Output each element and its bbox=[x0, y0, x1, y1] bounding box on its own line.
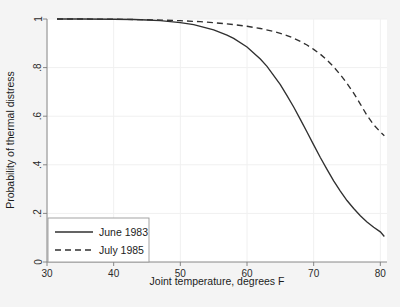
y-tick-label: 1 bbox=[33, 16, 44, 22]
y-tick-label: .4 bbox=[33, 160, 44, 169]
y-tick-label: 0 bbox=[33, 259, 44, 265]
legend-label-july-1985: July 1985 bbox=[99, 244, 144, 256]
chart-legend[interactable]: June 1983 July 1985 bbox=[48, 218, 149, 262]
y-tick-label: .6 bbox=[33, 112, 44, 121]
y-tick-label: .8 bbox=[33, 63, 44, 72]
x-tick-label: 80 bbox=[375, 268, 387, 279]
legend-label-june-1983: June 1983 bbox=[99, 226, 148, 238]
x-axis-title: Joint temperature, degrees F bbox=[150, 275, 285, 287]
y-axis-title: Probability of thermal distress bbox=[4, 71, 16, 209]
chart-figure: 3040506070800.2.4.6.81 Joint temperature… bbox=[0, 0, 400, 307]
probability-line-chart: 3040506070800.2.4.6.81 Joint temperature… bbox=[0, 0, 400, 307]
x-tick-label: 40 bbox=[108, 268, 120, 279]
y-tick-label: .2 bbox=[33, 209, 44, 218]
x-tick-label: 30 bbox=[41, 268, 53, 279]
x-tick-label: 70 bbox=[308, 268, 320, 279]
